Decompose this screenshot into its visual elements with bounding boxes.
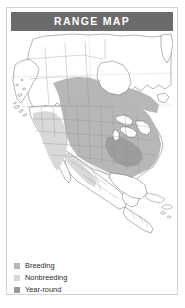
legend-item-breeding: Breeding (14, 260, 134, 271)
page-title: RANGE MAP (54, 16, 130, 27)
card-header: RANGE MAP (11, 12, 173, 31)
newfoundland (157, 93, 169, 103)
legend-item-year-round: Year-round (14, 284, 134, 295)
legend-item-nonbreeding: Nonbreeding (14, 272, 134, 283)
legend-swatch-year-round (14, 287, 20, 293)
map-legend: Breeding Nonbreeding Year-round (14, 260, 134, 296)
legend-label-year-round: Year-round (25, 286, 61, 293)
legend-label-breeding: Breeding (25, 262, 55, 269)
legend-swatch-nonbreeding (14, 275, 20, 281)
north-america-map-svg (11, 33, 173, 261)
legend-swatch-breeding (14, 263, 20, 269)
caribbean-islands (145, 193, 172, 218)
central-america (123, 207, 153, 233)
range-map-image (11, 33, 173, 261)
legend-label-nonbreeding: Nonbreeding (25, 274, 67, 281)
range-map-card: RANGE MAP (6, 7, 178, 295)
